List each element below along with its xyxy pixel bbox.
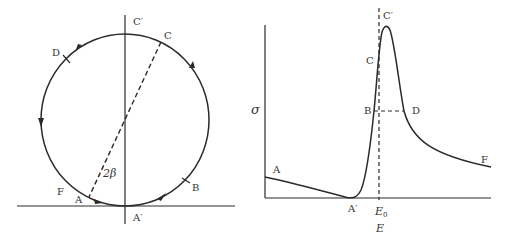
arrow-icon-top-left — [75, 44, 82, 52]
label-a: A — [74, 194, 83, 205]
resonance-curve — [265, 26, 491, 198]
label-b: B — [364, 105, 371, 116]
label-c-prime: C′ — [383, 10, 394, 21]
label-angle-2beta: 2β — [102, 167, 116, 180]
label-c: C — [164, 30, 172, 41]
arrow-icon-left — [38, 118, 44, 127]
label-a-prime: A′ — [347, 203, 358, 214]
arrow-icon-bottom-right — [157, 193, 166, 201]
phase-circle-diagram: C′ C D F A A′ B 2β — [17, 15, 235, 224]
x-axis-label-e: E — [375, 222, 384, 235]
label-c-prime: C′ — [133, 16, 144, 27]
label-d: D — [52, 47, 60, 58]
label-b: B — [192, 182, 199, 193]
label-a-prime: A′ — [132, 212, 143, 223]
cross-section-chart: σ A A′ B C C′ D F E0 E — [251, 8, 491, 235]
label-f: F — [57, 186, 64, 197]
label-a: A — [272, 164, 281, 175]
label-d: D — [412, 105, 420, 116]
label-f: F — [481, 154, 488, 165]
x-tick-e0: E0 — [374, 205, 388, 219]
y-axis-label-sigma: σ — [251, 102, 261, 117]
label-c: C — [366, 55, 374, 66]
figure-canvas: C′ C D F A A′ B 2β σ A A′ B C C′ D F E0 … — [0, 0, 505, 243]
